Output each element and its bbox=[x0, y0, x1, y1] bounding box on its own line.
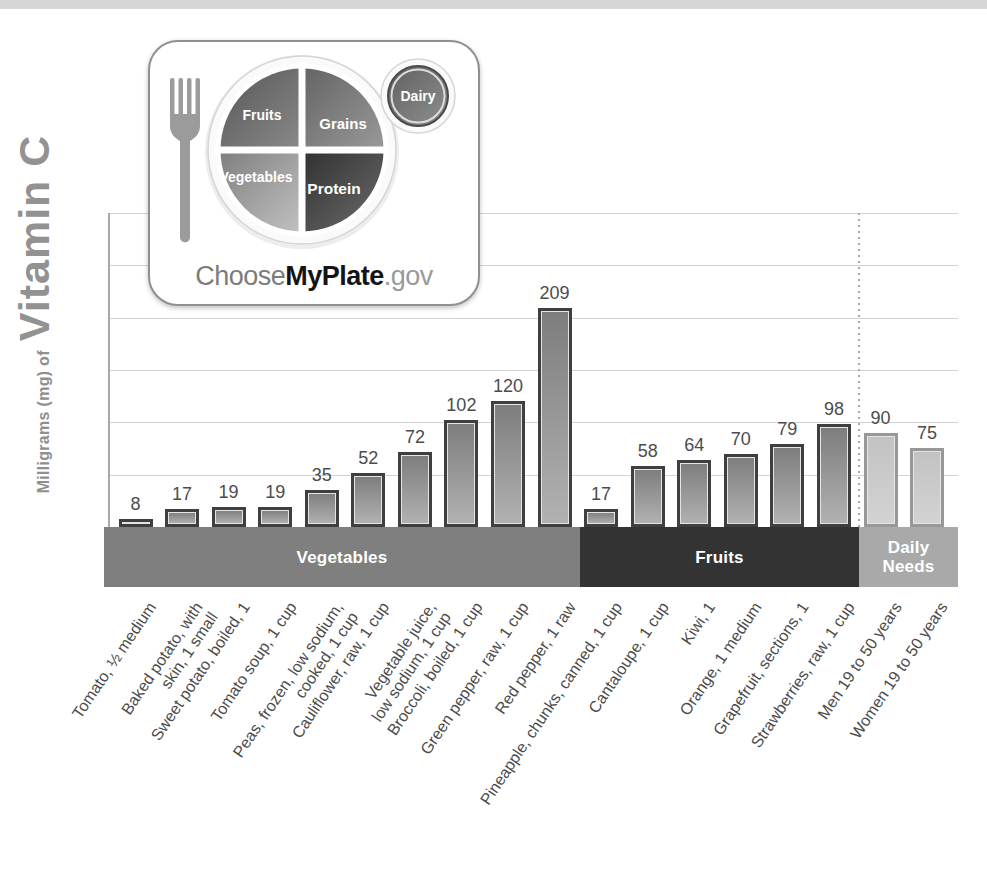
brand-myplate: MyPlate bbox=[285, 261, 384, 291]
bar-8 bbox=[491, 401, 525, 527]
bar-value-label: 72 bbox=[380, 427, 450, 448]
band-fruits: Fruits bbox=[580, 527, 859, 587]
page-root: Milligrams (mg) of Vitamin C VegetablesF… bbox=[0, 0, 987, 881]
bar-12 bbox=[677, 460, 711, 527]
gridline-150mg bbox=[110, 370, 958, 371]
band-vegetables: Vegetables bbox=[104, 527, 580, 587]
choosemyplate-brand-text: ChooseMyPlate.gov bbox=[150, 261, 478, 292]
plate-label-fruits: Fruits bbox=[243, 107, 282, 123]
gridline-100mg bbox=[110, 422, 958, 423]
category-label: Kiwi, 1 bbox=[678, 599, 719, 648]
bar-14 bbox=[770, 444, 804, 527]
category-label: Orange, 1 medium bbox=[677, 599, 766, 719]
plate-label-protein: Protein bbox=[307, 180, 360, 197]
bar-10 bbox=[584, 509, 618, 527]
bar-2 bbox=[212, 507, 246, 527]
myplate-logo-card: Fruits Grains Vegetables Protein Dairy C… bbox=[148, 40, 480, 306]
y-axis-line bbox=[108, 213, 110, 527]
bar-value-label: 75 bbox=[892, 423, 962, 444]
bar-3 bbox=[258, 507, 292, 527]
band-label: Daily Needs bbox=[882, 538, 934, 576]
plate-label-grains: Grains bbox=[319, 115, 367, 132]
daily-needs-separator-line bbox=[858, 213, 860, 527]
bar-value-label: 52 bbox=[333, 448, 403, 469]
band-label: Fruits bbox=[695, 548, 743, 567]
bar-value-label: 209 bbox=[520, 283, 590, 304]
brand-gov: .gov bbox=[384, 261, 433, 291]
bar-16 bbox=[864, 433, 898, 527]
plate: Fruits Grains Vegetables Protein Dairy bbox=[205, 55, 455, 249]
fork-icon bbox=[170, 78, 200, 242]
plate-label-vegetables: Vegetables bbox=[219, 169, 292, 185]
bar-value-label: 79 bbox=[752, 419, 822, 440]
bar-13 bbox=[724, 454, 758, 527]
plate-label-dairy: Dairy bbox=[400, 88, 435, 104]
brand-choose: Choose bbox=[195, 261, 285, 291]
gridline-200mg bbox=[110, 318, 958, 319]
bar-value-label: 120 bbox=[473, 376, 543, 397]
bar-value-label: 17 bbox=[566, 484, 636, 505]
bar-17 bbox=[910, 448, 944, 527]
band-label: Vegetables bbox=[297, 548, 388, 567]
bar-value-label: 102 bbox=[426, 395, 496, 416]
category-label: Men 19 to 50 years bbox=[814, 599, 906, 723]
bar-0 bbox=[119, 519, 153, 527]
band-daily-needs: Daily Needs bbox=[859, 527, 958, 587]
